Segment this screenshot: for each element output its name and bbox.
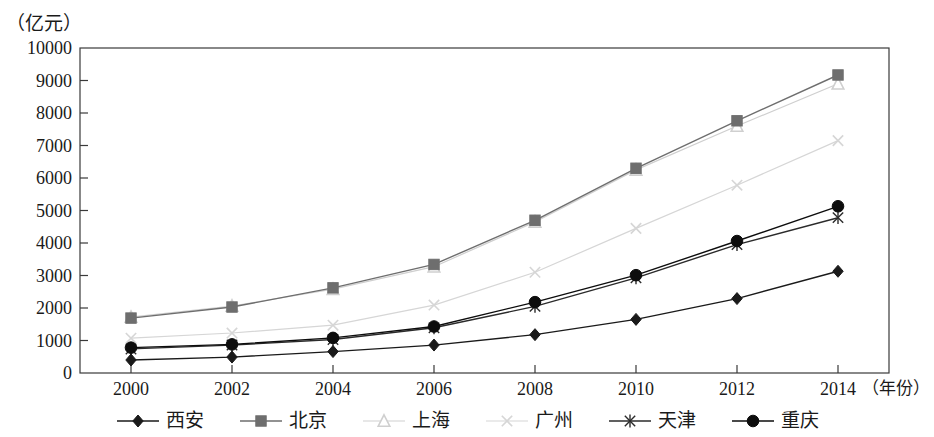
- x-axis-tick-label: 2006: [416, 379, 452, 399]
- legend-label: 西安: [166, 411, 204, 430]
- cross-marker: [484, 412, 530, 430]
- circle-marker: [428, 321, 440, 333]
- y-axis-tick-label: 8000: [36, 103, 72, 123]
- legend-item-5[interactable]: 天津: [607, 411, 696, 430]
- diamond-marker: [631, 313, 641, 325]
- legend-item-4[interactable]: 广州: [484, 411, 573, 430]
- x-axis-tick-label: 2004: [315, 379, 351, 399]
- y-axis-tick-label: 0: [63, 363, 72, 383]
- square-marker: [732, 116, 742, 126]
- series-上海: [125, 78, 844, 323]
- x-axis-tick-label: 2008: [517, 379, 553, 399]
- legend-label: 上海: [412, 411, 450, 430]
- square-marker: [429, 259, 439, 269]
- square-marker: [328, 283, 338, 293]
- diamond-marker: [429, 339, 439, 351]
- line-chart-figure: （亿元） 01000200030004000500060007000800090…: [0, 0, 934, 437]
- y-axis-tick-label: 10000: [27, 38, 72, 58]
- axis-frame: [80, 48, 889, 373]
- circle-marker: [747, 415, 759, 427]
- series-line: [131, 206, 838, 347]
- y-axis-tick-label: 1000: [36, 331, 72, 351]
- square-marker: [530, 215, 540, 225]
- square-marker: [256, 415, 266, 425]
- square-marker: [833, 70, 843, 80]
- circle-marker: [832, 200, 844, 212]
- x-axis-tick-label: 2014: [820, 379, 856, 399]
- square-marker: [227, 302, 237, 312]
- diamond-marker: [227, 351, 237, 363]
- diamond-marker: [115, 412, 161, 430]
- y-axis-tick-label: 5000: [36, 201, 72, 221]
- circle-marker: [630, 269, 642, 281]
- chart-plot-area: 0100020003000400050006000700080009000100…: [0, 0, 934, 437]
- legend-label: 广州: [535, 411, 573, 430]
- legend-item-2[interactable]: 北京: [238, 411, 327, 430]
- y-axis-tick-label: 6000: [36, 168, 72, 188]
- circle-marker: [125, 342, 137, 354]
- diamond-marker: [133, 415, 143, 427]
- circle-marker: [529, 296, 541, 308]
- triangle-marker: [361, 412, 407, 430]
- legend-label: 天津: [658, 411, 696, 430]
- series-重庆: [125, 200, 844, 353]
- chart-legend: 西安北京上海广州天津重庆: [0, 404, 934, 437]
- x-axis-tick-label: 2000: [113, 379, 149, 399]
- series-西安: [126, 265, 843, 366]
- plot-border: [80, 48, 889, 373]
- diamond-marker: [732, 293, 742, 305]
- legend-label: 北京: [289, 411, 327, 430]
- circle-marker: [730, 412, 776, 430]
- series-layer: [125, 70, 844, 366]
- y-axis-tick-label: 7000: [36, 136, 72, 156]
- square-marker: [126, 313, 136, 323]
- cross-marker: [530, 267, 540, 277]
- cross-marker: [631, 223, 641, 233]
- circle-marker: [731, 235, 743, 247]
- x-axis-tick-group: 20002002200420062008201020122014: [113, 365, 856, 399]
- circle-marker: [226, 339, 238, 351]
- circle-marker: [327, 332, 339, 344]
- legend-item-3[interactable]: 上海: [361, 411, 450, 430]
- x-axis-tick-label: 2010: [618, 379, 654, 399]
- legend-item-1[interactable]: 西安: [115, 411, 204, 430]
- square-marker: [631, 163, 641, 173]
- series-line: [131, 75, 838, 318]
- diamond-marker: [530, 329, 540, 341]
- legend-item-6[interactable]: 重庆: [730, 411, 819, 430]
- legend-label: 重庆: [781, 411, 819, 430]
- x-axis-tick-label: 2012: [719, 379, 755, 399]
- star-marker: [607, 412, 653, 430]
- y-axis-tick-group: 0100020003000400050006000700080009000100…: [27, 38, 88, 383]
- x-axis-unit-label: （年份）: [862, 374, 930, 399]
- cross-marker: [833, 135, 843, 145]
- y-axis-tick-label: 4000: [36, 233, 72, 253]
- y-axis-tick-label: 2000: [36, 298, 72, 318]
- x-axis-tick-label: 2002: [214, 379, 250, 399]
- square-marker: [238, 412, 284, 430]
- star-marker: [833, 211, 843, 224]
- series-北京: [126, 70, 843, 324]
- y-axis-tick-label: 9000: [36, 71, 72, 91]
- cross-marker: [732, 180, 742, 190]
- cross-marker: [429, 300, 439, 310]
- y-axis-tick-label: 3000: [36, 266, 72, 286]
- diamond-marker: [328, 346, 338, 358]
- diamond-marker: [833, 265, 843, 277]
- diamond-marker: [126, 354, 136, 366]
